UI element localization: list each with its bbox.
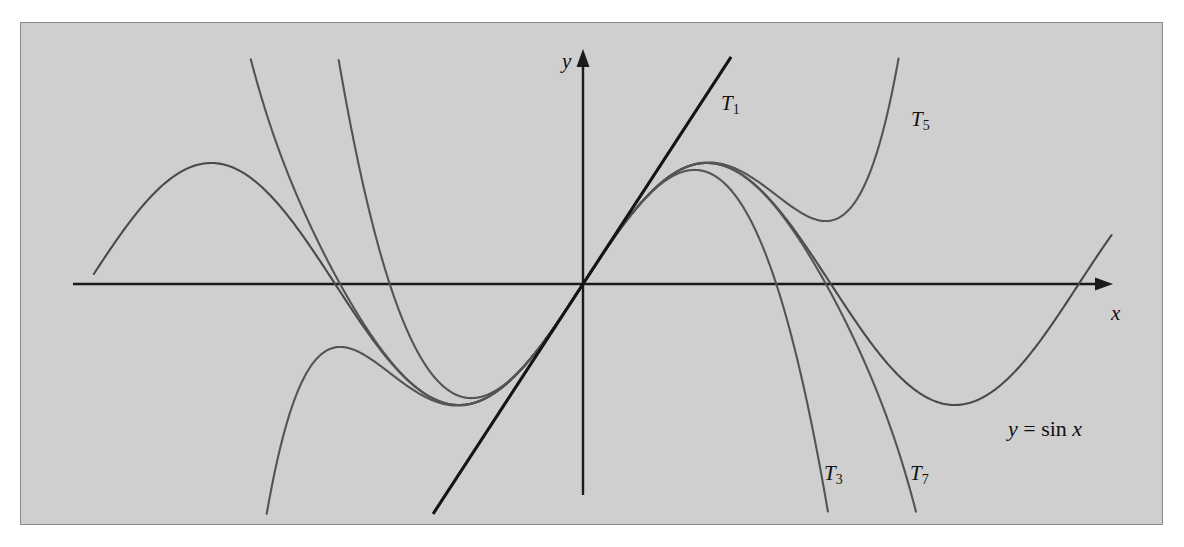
curve-label-t3: T3 [824,461,843,488]
curve-label-t7: T7 [910,461,929,488]
y-axis-arrowhead [577,49,590,67]
figure-frame: y x T1 T5 T3 T7 y = sin x [20,22,1163,525]
curve-label-t1-sub: 1 [733,102,740,117]
curve-label-t1-base: T [721,91,733,115]
curve-label-t3-sub: 3 [836,472,843,487]
x-axis-arrowhead [1095,278,1113,291]
curve-label-t7-sub: 7 [922,472,929,487]
curve-label-t5-base: T [911,107,923,131]
curve-label-t1: T1 [721,91,740,118]
taylor-polynomial-plot [21,23,1164,526]
curves-group [94,57,1112,514]
y-axis-label: y [562,49,571,74]
curve-label-sine: y = sin x [1008,416,1082,442]
axes-group [73,49,1113,495]
curve-label-t5: T5 [911,107,930,134]
curve-label-t7-base: T [910,461,922,485]
x-axis-label: x [1111,301,1120,326]
curve-label-t3-base: T [824,461,836,485]
curve-label-t5-sub: 5 [923,118,930,133]
